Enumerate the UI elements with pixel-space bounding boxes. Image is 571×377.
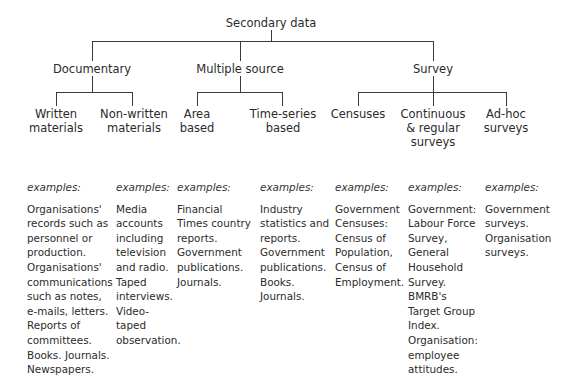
survey-drop — [433, 41, 434, 61]
continuous-drop — [433, 92, 434, 106]
non-written-drop — [132, 92, 133, 106]
node-survey: Survey — [411, 62, 455, 76]
examples-continuous: examples: Government: Labour Force Surve… — [408, 180, 478, 377]
censuses-drop — [358, 92, 359, 106]
examples-text: Government: Labour Force Survey, General… — [408, 202, 478, 377]
examples-text: Media accounts including television and … — [116, 202, 181, 348]
node-censuses: Censuses — [331, 107, 386, 121]
multiple-source-drop — [240, 41, 241, 61]
node-continuous-regular-surveys: Continuous & regular surveys — [401, 107, 466, 149]
area-drop — [197, 92, 198, 106]
examples-text: Government Censuses: Census of Populatio… — [335, 202, 404, 290]
examples-censuses: examples: Government Censuses: Census of… — [335, 180, 404, 289]
node-area-based: Area based — [180, 107, 215, 135]
examples-text: Organisations' records such as personnel… — [27, 202, 113, 377]
root-node: Secondary data — [224, 16, 318, 30]
examples-non-written: examples: Media accounts including telev… — [116, 180, 181, 348]
examples-text: Industry statistics and reports. Governm… — [260, 202, 329, 304]
written-drop — [56, 92, 57, 106]
time-series-drop — [282, 92, 283, 106]
examples-label: examples: — [335, 180, 404, 195]
level1-connector — [92, 41, 434, 42]
multiple-source-connector — [197, 92, 283, 93]
examples-label: examples: — [116, 180, 181, 195]
node-adhoc-surveys: Ad-hoc surveys — [484, 107, 529, 135]
adhoc-drop — [506, 92, 507, 106]
examples-text: Government surveys. Organisation surveys… — [485, 202, 551, 260]
node-time-series-based: Time-series based — [250, 107, 316, 135]
documentary-connector — [56, 92, 133, 93]
node-written-materials: Written materials — [29, 107, 83, 135]
examples-adhoc: examples: Government surveys. Organisati… — [485, 180, 551, 260]
examples-time-series: examples: Industry statistics and report… — [260, 180, 329, 304]
examples-text: Financial Times country reports. Governm… — [177, 202, 251, 290]
documentary-stem — [92, 76, 93, 92]
documentary-drop — [92, 41, 93, 61]
examples-label: examples: — [408, 180, 478, 195]
examples-label: examples: — [485, 180, 551, 195]
examples-label: examples: — [27, 180, 113, 195]
multiple-source-stem — [240, 76, 241, 92]
examples-area-based: examples: Financial Times country report… — [177, 180, 251, 289]
node-documentary: Documentary — [51, 62, 133, 76]
examples-label: examples: — [177, 180, 251, 195]
node-multiple-source: Multiple source — [194, 62, 286, 76]
examples-written: examples: Organisations' records such as… — [27, 180, 113, 377]
node-non-written-materials: Non-written materials — [100, 107, 168, 135]
examples-label: examples: — [260, 180, 329, 195]
